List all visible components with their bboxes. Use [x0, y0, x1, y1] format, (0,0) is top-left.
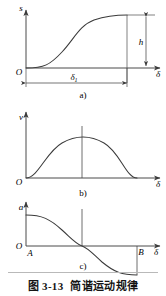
panel-c-x-axis-label: δ [154, 247, 159, 257]
panel-a: s O δ h δ1 a) [16, 3, 161, 100]
panel-b-caption: b) [79, 188, 87, 198]
figure-caption-title: 简谐运动规律 [70, 280, 138, 293]
panel-a-displacement-curve [26, 15, 127, 68]
panel-c-y-axis-label: a [19, 202, 24, 212]
panel-b-origin-label: O [16, 177, 23, 187]
panel-a-caption: a) [80, 90, 87, 100]
panel-a-delta1-label: δ1 [70, 72, 77, 83]
panel-a-origin-label: O [16, 67, 23, 77]
caption-divider-rule [8, 272, 158, 273]
figure-simple-harmonic-motion: s O δ h δ1 a) v O δ b) a O A B δ c) [0, 0, 166, 296]
figure-caption: 图 3-13简谐运动规律 [0, 277, 166, 293]
panel-c: a O A B δ c) [16, 202, 160, 275]
panel-a-y-axis-label: s [19, 3, 23, 13]
panel-b: v O δ b) [16, 112, 161, 198]
panel-b-y-axis-label: v [19, 112, 23, 122]
panel-a-h-label: h [139, 37, 144, 47]
figure-caption-number: 图 3-13 [28, 280, 64, 292]
panel-b-x-axis-label: δ [156, 179, 161, 189]
panel-a-x-axis-label: δ [156, 69, 161, 79]
panel-c-caption: c) [80, 261, 87, 271]
panel-c-origin-label: O [16, 241, 23, 251]
panel-b-velocity-curve [26, 137, 137, 178]
panel-c-point-a-label: A [26, 248, 33, 258]
panel-c-point-b-label: B [138, 247, 144, 257]
